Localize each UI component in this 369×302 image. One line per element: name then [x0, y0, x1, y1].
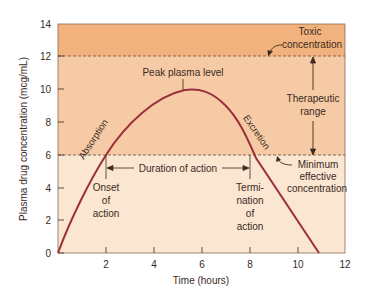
termination-label-4: action — [237, 221, 264, 232]
y-axis-label: Plasma drug concentration (mcg/mL) — [18, 57, 29, 221]
y-tick-14: 14 — [40, 19, 52, 30]
x-tick-4: 4 — [151, 259, 157, 270]
mec-label-1: Minimum — [298, 159, 339, 170]
y-tick-4: 4 — [45, 183, 51, 194]
duration-label: Duration of action — [139, 163, 217, 174]
x-tick-10: 10 — [292, 259, 304, 270]
y-tick-6: 6 — [45, 150, 51, 161]
y-tick-12: 12 — [40, 51, 52, 62]
onset-label-1: Onset — [93, 182, 120, 193]
mec-label-2: effective — [299, 171, 336, 182]
y-tick-10: 10 — [40, 84, 52, 95]
termination-label-1: Termi- — [236, 182, 264, 193]
termination-label-3: of — [246, 208, 255, 219]
y-tick-2: 2 — [45, 215, 51, 226]
x-tick-8: 8 — [247, 259, 253, 270]
mec-label-3: concentration — [287, 183, 347, 194]
x-tick-6: 6 — [199, 259, 205, 270]
onset-label-2: of — [102, 195, 111, 206]
onset-label-3: action — [93, 208, 120, 219]
x-tick-2: 2 — [103, 259, 109, 270]
y-tick-8: 8 — [45, 117, 51, 128]
therapeutic-label-2: range — [300, 106, 326, 117]
toxic-label-1: Toxic — [299, 26, 322, 37]
x-axis-label: Time (hours) — [173, 275, 229, 286]
toxic-label-2: concentration — [282, 39, 342, 50]
y-tick-0: 0 — [45, 248, 51, 259]
termination-label-2: nation — [236, 195, 263, 206]
therapeutic-label-1: Therapeutic — [287, 93, 340, 104]
peak-label: Peak plasma level — [142, 67, 223, 78]
chart-canvas: 0 2 4 6 8 10 12 14 2 4 6 8 10 12 Time (h… — [0, 0, 369, 302]
x-tick-12: 12 — [339, 259, 351, 270]
